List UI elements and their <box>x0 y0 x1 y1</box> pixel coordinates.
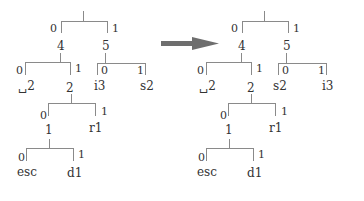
left-node-4-edge-0: 0 <box>16 64 23 77</box>
right-node-2-edge-0: 0 <box>220 109 227 122</box>
right-node-4-edge-1: 1 <box>256 62 263 75</box>
left-node-2-edge-0: 0 <box>40 109 47 122</box>
right-node-2-edge-1: 1 <box>281 105 288 118</box>
right-node-2: 0 1 1 r1 <box>220 94 288 137</box>
left-node-2: 0 1 1 r1 <box>40 94 108 137</box>
left-node-1-label: 1 <box>45 123 53 137</box>
left-node-5: 5 0 1 i3 s2 <box>94 39 154 93</box>
transform-arrow-icon <box>161 37 219 50</box>
left-node-1-edge-1: 1 <box>78 148 85 161</box>
left-node-2-edge-1: 1 <box>101 105 108 118</box>
right-leaf-space: ␣2 <box>199 79 216 93</box>
right-node-1: 0 1 esc d1 <box>197 139 265 180</box>
right-node-1-edge-1: 1 <box>258 148 265 161</box>
left-root-edge-1: 1 <box>112 22 119 35</box>
left-root-edge-0: 0 <box>50 22 57 35</box>
left-leaf-space: ␣2 <box>18 79 35 93</box>
left-node-4-label: 4 <box>57 39 65 53</box>
left-leaf-esc: esc <box>17 165 37 179</box>
right-leaf-d1: d1 <box>247 166 262 180</box>
right-node-5-edge-1: 1 <box>318 64 325 77</box>
right-node-1-label: 1 <box>225 123 233 137</box>
left-node-4-edge-1: 1 <box>75 62 82 75</box>
right-root-edge-1: 1 <box>293 22 300 35</box>
left-node-1: 0 1 esc d1 <box>17 139 85 180</box>
left-leaf-i3: i3 <box>94 79 105 93</box>
right-node-2-label: 2 <box>247 81 255 95</box>
left-node-2-label: 2 <box>66 81 74 95</box>
left-node-4: 4 0 1 ␣2 2 <box>16 39 82 95</box>
right-root-edge-0: 0 <box>231 22 238 35</box>
left-node-5-label: 5 <box>102 39 110 53</box>
left-leaf-d1: d1 <box>67 166 82 180</box>
right-tree: 0 1 4 0 1 ␣2 2 5 0 1 s2 i3 0 1 <box>197 11 333 180</box>
left-node-5-edge-1: 1 <box>137 64 144 77</box>
right-leaf-r1: r1 <box>269 121 282 135</box>
left-root-node: 0 1 <box>50 11 119 35</box>
right-leaf-i3: i3 <box>322 79 333 93</box>
left-leaf-s2: s2 <box>140 79 154 93</box>
right-node-1-edge-0: 0 <box>198 151 205 164</box>
right-node-4: 4 0 1 ␣2 2 <box>197 39 263 95</box>
right-leaf-s2: s2 <box>273 79 287 93</box>
right-node-4-label: 4 <box>238 39 246 53</box>
right-node-5-label: 5 <box>283 39 291 53</box>
right-root-node: 0 1 <box>231 11 300 35</box>
left-node-1-edge-0: 0 <box>18 151 25 164</box>
left-tree: 0 1 4 0 1 ␣2 2 5 0 1 i3 s2 0 1 <box>16 11 154 180</box>
right-node-5-edge-0: 0 <box>282 64 289 77</box>
right-node-4-edge-0: 0 <box>197 64 204 77</box>
left-node-5-edge-0: 0 <box>101 64 108 77</box>
huffman-diagram: 0 1 4 0 1 ␣2 2 5 0 1 i3 s2 0 1 <box>0 0 364 201</box>
left-leaf-r1: r1 <box>89 121 102 135</box>
right-node-5: 5 0 1 s2 i3 <box>273 39 333 93</box>
right-leaf-esc: esc <box>197 165 217 179</box>
